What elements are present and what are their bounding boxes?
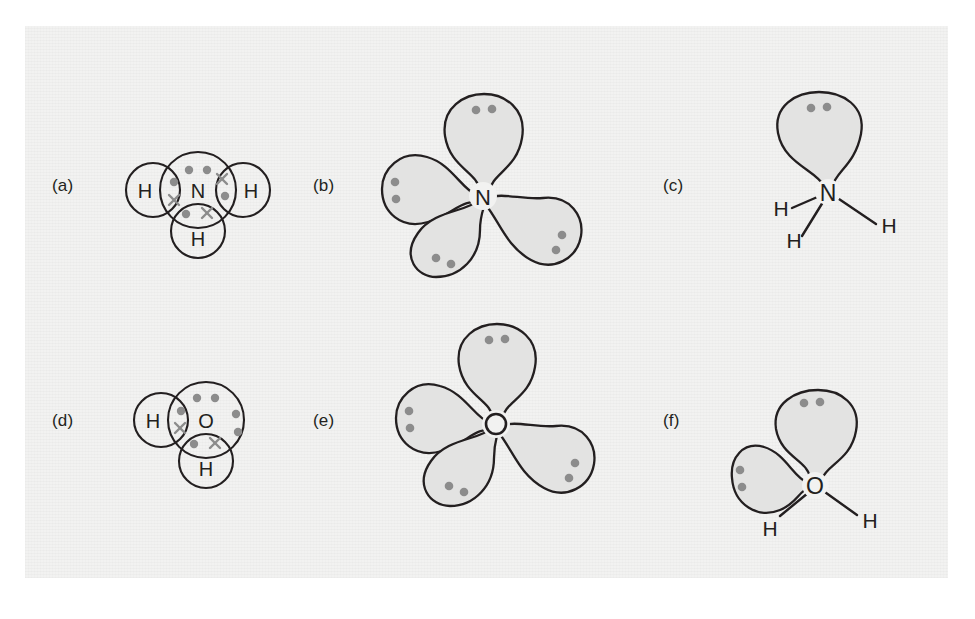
panel-b-diagram: N [370, 88, 585, 278]
lone-pair-dot [816, 398, 825, 407]
electron-dot [488, 105, 497, 114]
bond-line-bottom [802, 202, 823, 236]
electron-dot [485, 336, 494, 345]
panel-label-a: (a) [52, 176, 73, 196]
panel-c-hydrogen-label-bottom: H [786, 229, 801, 252]
hydrogen-shell-circle-left [126, 163, 180, 217]
hydrogen-shell-circle-left [134, 393, 188, 447]
bonding-cross-bottom [210, 438, 220, 448]
panel-label-b: (b) [313, 176, 334, 196]
lone-pair-dot [211, 394, 219, 402]
panel-d-hydrogen-label-left: H [146, 410, 160, 432]
panel-f-center-atom-label: O [806, 473, 824, 499]
panel-a-center-atom-label: N [191, 180, 205, 202]
electron-dot [460, 488, 469, 497]
electron-dot [558, 231, 567, 240]
electron-dot [432, 254, 441, 263]
panel-d-hydrogen-label-bottom: H [199, 458, 213, 480]
orbital-lobe-right [499, 424, 594, 493]
lone-pair-lobes-group-f [732, 390, 857, 513]
panel-d-diagram: O H H [128, 378, 298, 493]
orbital-lobe-right [486, 196, 581, 265]
panel-a-hydrogen-label-bottom: H [191, 228, 205, 250]
bonding-dot-left [170, 178, 178, 186]
panel-c-center-atom-label: N [820, 180, 837, 206]
panel-label-c: (c) [663, 176, 683, 196]
electron-dot [472, 106, 481, 115]
electron-dot [501, 335, 510, 344]
lone-pair-dot [823, 103, 832, 112]
panel-d-center-atom-label: O [198, 410, 214, 432]
bonding-dot-bottom [190, 440, 198, 448]
panel-f-hydrogen-label-left: H [762, 517, 777, 540]
electron-dot [405, 407, 414, 416]
figure-page: (a) N H H H [0, 0, 975, 619]
lone-pair-dot [185, 166, 193, 174]
panel-c-hydrogen-label-right: H [881, 214, 896, 237]
panel-c-hydrogen-label-left: H [773, 197, 788, 220]
panel-e-center-atom-ring [486, 414, 506, 434]
bonding-cross-bottom [202, 208, 212, 218]
panel-b-center-atom-label: N [475, 185, 491, 210]
lone-pair-dot [193, 394, 201, 402]
panel-f-diagram: O H H [742, 388, 917, 548]
orbital-lobe-top [459, 324, 536, 419]
bonding-dot-right [221, 192, 229, 200]
electron-dot [392, 195, 401, 204]
panel-label-e: (e) [313, 411, 334, 431]
lone-pair-dot [203, 166, 211, 174]
panel-e-diagram [388, 318, 603, 508]
lone-pair-dot [807, 104, 816, 113]
panel-f-hydrogen-label-right: H [862, 509, 877, 532]
bond-line-right [822, 490, 857, 515]
electron-dot [447, 260, 456, 269]
lone-pair-dot [738, 483, 747, 492]
electron-dot [445, 482, 454, 491]
panel-label-d: (d) [52, 411, 73, 431]
panel-label-f: (f) [663, 411, 680, 431]
lone-pair-dot [234, 428, 242, 436]
lone-pair-dot [232, 410, 240, 418]
bonding-cross-left [175, 423, 185, 433]
bonding-dot-bottom [182, 210, 190, 218]
bonding-dot-left [177, 407, 185, 415]
electron-dot [565, 474, 574, 483]
panel-a-hydrogen-label-left: H [138, 180, 152, 202]
electron-dot [406, 424, 415, 433]
electron-dot [571, 459, 580, 468]
electron-dot [391, 178, 400, 187]
bond-line-right [836, 197, 876, 224]
panel-c-diagram: N H H H [756, 88, 921, 248]
panel-a-hydrogen-label-right: H [244, 180, 258, 202]
lone-pair-lobe [777, 92, 861, 187]
panel-a-diagram: N H H H [118, 148, 298, 263]
electron-dot [552, 246, 561, 255]
lone-pair-dot [736, 466, 745, 475]
lone-pair-dot [800, 399, 809, 408]
